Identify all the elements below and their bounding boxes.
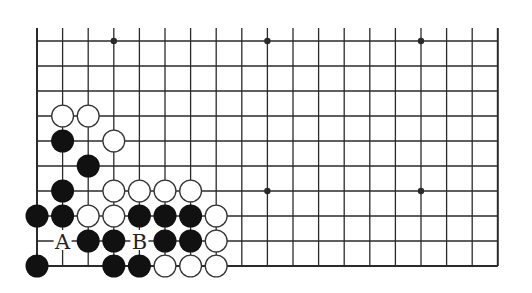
black-stone bbox=[102, 230, 125, 253]
white-stone bbox=[77, 105, 99, 127]
black-stone bbox=[179, 205, 202, 228]
black-stone bbox=[154, 230, 177, 253]
white-stone bbox=[205, 205, 227, 227]
black-stone bbox=[51, 130, 74, 153]
black-stone bbox=[154, 205, 177, 228]
black-stone bbox=[26, 205, 49, 228]
black-stone bbox=[77, 155, 100, 178]
white-stone bbox=[103, 205, 125, 227]
star-point-icon bbox=[418, 188, 424, 194]
point-label-a: A bbox=[54, 230, 71, 254]
white-stone bbox=[52, 105, 74, 127]
star-point-icon bbox=[264, 188, 270, 194]
black-stone bbox=[179, 230, 202, 253]
star-point-icon bbox=[418, 38, 424, 44]
white-stone bbox=[103, 130, 125, 152]
black-stone bbox=[128, 255, 151, 278]
white-stone bbox=[205, 255, 227, 277]
white-stone bbox=[154, 180, 176, 202]
black-stone bbox=[128, 205, 151, 228]
white-stone bbox=[103, 180, 125, 202]
go-board-diagram: AB bbox=[0, 0, 532, 293]
black-stone bbox=[102, 255, 125, 278]
white-stone bbox=[180, 255, 202, 277]
black-stone bbox=[51, 205, 74, 228]
white-stone bbox=[154, 255, 176, 277]
white-stone bbox=[77, 205, 99, 227]
star-point-icon bbox=[264, 38, 270, 44]
black-stone bbox=[51, 180, 74, 203]
white-stone bbox=[180, 180, 202, 202]
black-stone bbox=[77, 230, 100, 253]
white-stone bbox=[129, 180, 151, 202]
white-stone bbox=[205, 230, 227, 252]
star-point-icon bbox=[111, 38, 117, 44]
point-label-b: B bbox=[132, 230, 147, 254]
black-stone bbox=[26, 255, 49, 278]
